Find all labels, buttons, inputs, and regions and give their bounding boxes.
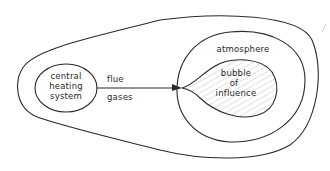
source-label-line-1: central (50, 71, 81, 81)
source-label-line-2: heating (49, 81, 83, 91)
stray-mark (322, 24, 326, 32)
edge-label-line-1: flue (107, 74, 124, 84)
atmosphere-label: atmosphere (217, 44, 270, 54)
bubble-label-line-1: bubble (221, 68, 251, 78)
edge-label-line-2: gases (107, 92, 133, 102)
bubble-label-line-3: influence (216, 88, 257, 98)
flue-gas-diagram: central heating system flue gases atmosp… (0, 0, 330, 171)
source-label-line-3: system (50, 91, 82, 101)
bubble-label-line-2: of (230, 78, 239, 88)
